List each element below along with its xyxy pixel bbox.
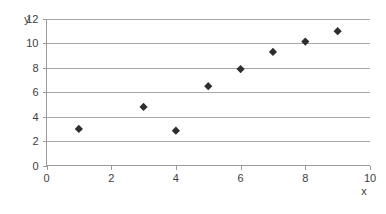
x-tick-label: 0: [43, 172, 49, 184]
x-tick-label: 10: [364, 172, 376, 184]
x-axis-ticks: [48, 166, 371, 170]
y-axis-tick-labels: 024681012: [26, 13, 38, 172]
x-tick-label: 4: [173, 172, 179, 184]
scatter-chart: 024681012 0246810 y x: [0, 0, 386, 214]
x-axis-title: x: [361, 185, 367, 197]
y-tick-label: 6: [32, 86, 38, 98]
data-point-marker: [139, 103, 147, 111]
y-axis-ticks: [43, 20, 47, 167]
data-point-marker: [75, 125, 83, 133]
data-point-marker: [237, 65, 245, 73]
y-tick-label: 2: [32, 135, 38, 147]
y-axis-title: y: [24, 13, 30, 25]
data-point-marker: [334, 27, 342, 35]
y-tick-label: 8: [32, 62, 38, 74]
y-tick-label: 10: [26, 37, 38, 49]
y-tick-label: 0: [32, 160, 38, 172]
x-tick-label: 8: [302, 172, 308, 184]
x-tick-label: 2: [108, 172, 114, 184]
data-point-marker: [172, 127, 180, 135]
x-axis-tick-labels: 0246810: [43, 172, 376, 184]
data-point-marker: [301, 37, 309, 45]
x-tick-label: 6: [238, 172, 244, 184]
data-point-marker: [269, 48, 277, 56]
plot-area: 024681012 0246810 y x: [0, 0, 386, 214]
gridlines: [47, 20, 371, 142]
data-point-marker: [204, 82, 212, 90]
y-tick-label: 4: [32, 111, 38, 123]
